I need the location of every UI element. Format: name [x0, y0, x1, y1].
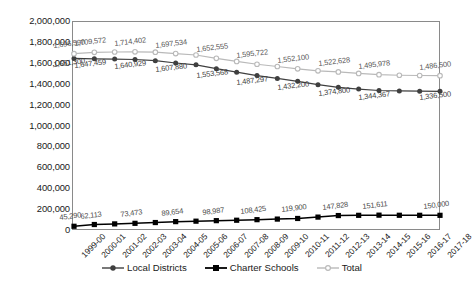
data-point-marker — [72, 51, 77, 56]
y-axis-tick-label: 400,000 — [2, 183, 70, 193]
y-axis-tick-label: 800,000 — [2, 141, 70, 151]
data-point-marker — [356, 213, 361, 218]
legend-marker-icon — [101, 263, 125, 273]
data-point-marker — [397, 213, 402, 218]
legend-marker-icon — [204, 263, 228, 273]
y-axis-tick-label: 600,000 — [2, 162, 70, 172]
y-axis-tick-label: 2,000,000 — [2, 16, 70, 26]
data-point-marker — [316, 69, 321, 74]
y-axis-tick-label: 1,200,000 — [2, 100, 70, 110]
data-point-marker — [336, 213, 341, 218]
data-point-marker — [275, 216, 280, 221]
data-point-marker — [173, 219, 178, 224]
data-point-marker — [193, 219, 198, 224]
legend-item-total[interactable]: Total — [316, 262, 362, 273]
data-point-marker — [234, 70, 239, 75]
data-point-marker — [377, 72, 382, 77]
data-point-marker — [153, 58, 158, 63]
data-point-marker — [254, 217, 259, 222]
y-axis-tick-label: 1,000,000 — [2, 121, 70, 131]
data-point-marker — [397, 73, 402, 78]
data-point-marker — [437, 213, 442, 218]
data-label: 1,486,500 — [419, 60, 451, 72]
data-point-marker — [417, 73, 422, 78]
y-axis-tick-label: 0 — [2, 225, 70, 235]
data-point-marker — [132, 221, 137, 226]
data-point-marker — [234, 218, 239, 223]
data-point-marker — [336, 70, 341, 75]
legend-marker-icon — [316, 263, 340, 273]
legend-label: Total — [342, 262, 362, 273]
data-point-marker — [214, 218, 219, 223]
data-point-marker — [112, 50, 117, 55]
legend-label: Charter Schools — [230, 262, 299, 273]
data-point-marker — [356, 71, 361, 76]
data-point-marker — [214, 56, 219, 61]
data-point-marker — [133, 50, 138, 55]
data-point-marker — [295, 67, 300, 72]
legend-label: Local Districts — [127, 262, 187, 273]
legend-item-charter-schools[interactable]: Charter Schools — [204, 262, 299, 273]
y-axis-tick-label: 1,400,000 — [2, 79, 70, 89]
data-point-marker — [112, 221, 117, 226]
data-point-marker — [417, 213, 422, 218]
legend-item-local-districts[interactable]: Local Districts — [101, 262, 187, 273]
data-point-marker — [153, 50, 158, 55]
data-point-marker — [92, 50, 97, 55]
data-point-marker — [356, 87, 361, 92]
data-point-marker — [295, 216, 300, 221]
data-point-marker — [397, 88, 402, 93]
data-point-marker — [438, 73, 443, 78]
data-point-marker — [173, 51, 178, 56]
data-point-marker — [153, 220, 158, 225]
data-point-marker — [316, 82, 321, 87]
data-point-marker — [92, 222, 97, 227]
data-point-marker — [275, 76, 280, 81]
data-point-marker — [255, 62, 260, 67]
chart-legend: Local DistrictsCharter SchoolsTotal — [0, 262, 463, 273]
data-point-marker — [71, 224, 76, 229]
data-point-marker — [194, 62, 199, 67]
data-point-marker — [315, 215, 320, 220]
data-point-marker — [376, 213, 381, 218]
